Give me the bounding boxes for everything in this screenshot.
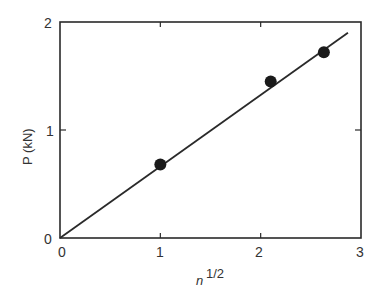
data-point <box>318 46 330 58</box>
x-tick-label-0: 0 <box>58 244 66 260</box>
chart: 0 1 2 0 1 2 3 P (kN) n 1/2 <box>0 0 375 299</box>
fit-line <box>60 33 348 238</box>
y-tick-label-1: 1 <box>46 123 54 139</box>
x-tick-label-1: 1 <box>156 244 164 260</box>
data-point <box>154 159 166 171</box>
data-point <box>265 75 277 87</box>
x-axis-label-base: n <box>196 273 203 288</box>
y-axis-label: P (kN) <box>20 128 35 165</box>
x-tick-label-3: 3 <box>356 244 364 260</box>
y-tick-label-0: 0 <box>44 231 52 247</box>
x-tick-label-2: 2 <box>255 244 263 260</box>
x-axis-label-sup: 1/2 <box>206 266 224 281</box>
y-tick-label-2: 2 <box>44 15 52 31</box>
